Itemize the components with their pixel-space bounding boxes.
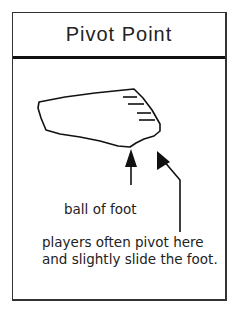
- ball-of-foot-arrow-icon: [125, 149, 137, 185]
- foot-outline-icon: [38, 89, 160, 147]
- foot-diagram: [0, 0, 237, 319]
- ball-of-foot-label: ball of foot: [64, 201, 137, 218]
- pivot-note-label: players often pivot here and slightly sl…: [42, 234, 222, 268]
- pivot-arrow-icon: [157, 151, 180, 232]
